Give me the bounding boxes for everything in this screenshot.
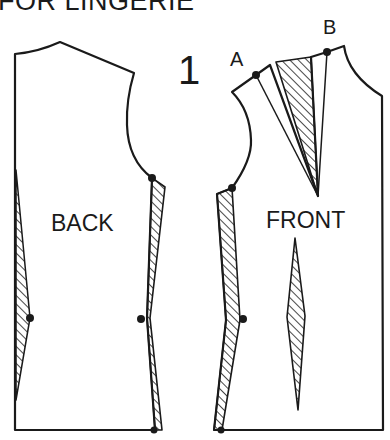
back-center-wedge bbox=[16, 170, 30, 400]
point-b-label: B bbox=[323, 16, 336, 39]
marker-dot bbox=[151, 427, 158, 434]
point-b-dot bbox=[323, 48, 331, 56]
marker-dot bbox=[218, 427, 225, 434]
marker-dot bbox=[239, 315, 247, 323]
back-label: BACK bbox=[51, 210, 114, 237]
front-label: FRONT bbox=[266, 207, 345, 234]
marker-dot bbox=[148, 174, 156, 182]
point-a-label: A bbox=[230, 48, 243, 71]
waist-dart bbox=[287, 238, 305, 410]
dart-leg-b bbox=[318, 52, 327, 196]
front-piece bbox=[214, 46, 383, 430]
marker-dot bbox=[26, 314, 34, 322]
front-side-strip bbox=[214, 188, 240, 430]
point-a-dot bbox=[252, 71, 260, 79]
marker-dot bbox=[137, 315, 145, 323]
marker-dot bbox=[228, 184, 236, 192]
